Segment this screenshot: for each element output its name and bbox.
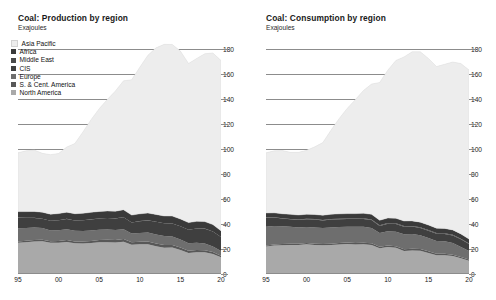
y-axis-tick — [469, 99, 476, 100]
legend-item[interactable]: Middle East — [11, 56, 75, 64]
x-axis-tick-label: 20 — [217, 276, 224, 283]
y-axis-tick — [221, 174, 228, 175]
legend-item[interactable]: S. & Cent. America — [11, 81, 75, 89]
legend-item[interactable]: Europe — [11, 73, 75, 81]
legend-item[interactable]: Asia Pacific — [11, 40, 75, 48]
y-axis-tick — [469, 249, 476, 250]
x-axis-tick-label: 15 — [177, 276, 184, 283]
y-axis-tick — [469, 49, 476, 50]
y-axis-tick — [221, 274, 228, 275]
y-axis-tick — [469, 224, 476, 225]
y-axis-tick — [221, 74, 228, 75]
y-axis-tick — [221, 49, 228, 50]
chart-page: Coal: Production by region Exajoules 020… — [0, 0, 496, 300]
x-axis-tick-label: 10 — [136, 276, 143, 283]
x-axis-tick-label: 00 — [303, 276, 310, 283]
x-axis-tick-label: 15 — [425, 276, 432, 283]
panel-title: Coal: Production by region — [18, 13, 128, 23]
legend-item-label: CIS — [20, 65, 31, 73]
y-axis-tick — [221, 249, 228, 250]
stacked-area-consumption — [266, 36, 469, 274]
x-axis-line — [18, 273, 221, 274]
y-axis-tick — [221, 99, 228, 100]
x-axis-labels: 950005101520 — [248, 276, 496, 292]
legend-swatch-icon — [11, 49, 16, 54]
legend-item-label: Middle East — [20, 56, 54, 64]
y-axis-tick — [221, 149, 228, 150]
panel-consumption: Coal: Consumption by region Exajoules 02… — [248, 0, 496, 300]
y-axis-tick — [221, 199, 228, 200]
x-axis-tick-label: 05 — [96, 276, 103, 283]
y-axis-tick — [469, 274, 476, 275]
x-axis-line — [266, 273, 469, 274]
y-axis-tick — [469, 149, 476, 150]
x-axis-tick-label: 05 — [344, 276, 351, 283]
legend-swatch-icon — [11, 82, 16, 87]
legend-swatch-icon — [11, 74, 16, 79]
y-axis-labels: 020406080100120140160180 — [471, 36, 495, 275]
legend-swatch-icon — [11, 66, 16, 71]
legend-item-label: Europe — [20, 73, 41, 81]
legend: Asia PacificAfricaMiddle EastCISEuropeS.… — [11, 40, 75, 97]
legend-item[interactable]: CIS — [11, 65, 75, 73]
legend-item-label: Africa — [20, 48, 37, 56]
x-axis-tick-label: 20 — [465, 276, 472, 283]
x-axis-tick-label: 10 — [384, 276, 391, 283]
legend-item-label: Asia Pacific — [22, 40, 56, 48]
area-series — [266, 52, 469, 239]
panel-production: Coal: Production by region Exajoules 020… — [0, 0, 248, 300]
legend-item[interactable]: Africa — [11, 48, 75, 56]
y-axis-tick — [469, 199, 476, 200]
y-axis-labels: 020406080100120140160180 — [223, 36, 247, 275]
panel-subtitle: Exajoules — [18, 24, 47, 31]
y-axis-tick — [469, 124, 476, 125]
panel-title: Coal: Consumption by region — [266, 13, 386, 23]
x-axis-tick-label: 95 — [262, 276, 269, 283]
legend-item[interactable]: North America — [11, 89, 75, 97]
x-axis-tick-label: 95 — [14, 276, 21, 283]
legend-swatch-icon — [11, 40, 18, 47]
y-axis-tick — [221, 224, 228, 225]
y-axis-tick — [221, 124, 228, 125]
y-axis-tick — [469, 174, 476, 175]
legend-item-label: S. & Cent. America — [20, 81, 76, 89]
legend-item-label: North America — [20, 89, 62, 97]
legend-swatch-icon — [11, 90, 16, 95]
plot-area-consumption — [266, 36, 469, 274]
x-axis-tick-label: 00 — [55, 276, 62, 283]
panel-subtitle: Exajoules — [266, 24, 295, 31]
x-axis-labels: 950005101520 — [0, 276, 248, 292]
legend-swatch-icon — [11, 58, 16, 63]
y-axis-tick — [469, 74, 476, 75]
